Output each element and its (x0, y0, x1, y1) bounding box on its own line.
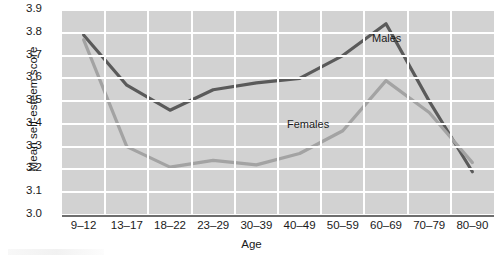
scan-artifact (8, 249, 104, 255)
x-axis-tick-label: 30–39 (240, 219, 272, 231)
y-axis-tick-label: 3.8 (26, 25, 56, 37)
y-axis-tick-label: 3.2 (26, 161, 56, 173)
gridline-vertical (277, 10, 279, 215)
y-axis-tick-label: 3.0 (26, 207, 56, 219)
gridline-vertical (363, 10, 365, 215)
gridline-vertical (320, 10, 322, 215)
x-axis-tick-label: 9–12 (71, 219, 97, 231)
gridline-vertical (147, 10, 149, 215)
gridline-vertical (191, 10, 193, 215)
series-label-females: Females (287, 118, 329, 130)
plot-area (62, 10, 494, 215)
gridline-vertical (234, 10, 236, 215)
x-axis-tick-label: 70–79 (413, 219, 445, 231)
x-axis-line (62, 215, 494, 217)
y-axis-tick-label: 3.1 (26, 184, 56, 196)
x-axis-tick-label: 40–49 (284, 219, 316, 231)
x-axis-tick-label: 23–29 (197, 219, 229, 231)
x-axis-tick-label: 13–17 (111, 219, 143, 231)
chart-container: Mean self-esteem score 3.93.83.73.63.53.… (0, 0, 503, 259)
series-label-males: Males (372, 32, 401, 44)
x-axis-tick-label: 80–90 (456, 219, 488, 231)
y-axis-tick-label: 3.5 (26, 93, 56, 105)
gridline-vertical (104, 10, 106, 215)
gridline-vertical (407, 10, 409, 215)
y-axis-tick-label: 3.7 (26, 48, 56, 60)
y-axis-tick-label: 3.3 (26, 139, 56, 151)
x-axis-tick-label: 18–22 (154, 219, 186, 231)
gridline-vertical (450, 10, 452, 215)
y-axis-tick-label: 3.6 (26, 70, 56, 82)
y-axis-tick-label: 3.4 (26, 116, 56, 128)
x-axis-tick-label: 60–69 (370, 219, 402, 231)
y-axis-tick-label: 3.9 (26, 2, 56, 14)
x-axis-tick-label: 50–59 (327, 219, 359, 231)
